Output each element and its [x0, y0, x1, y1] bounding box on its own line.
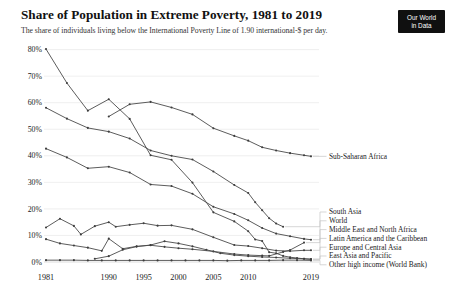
data-point-world	[191, 193, 193, 195]
data-point-latin-america-and-the-caribbean	[94, 225, 96, 227]
data-point-world	[87, 167, 89, 169]
data-point-latin-america-and-the-caribbean	[212, 236, 214, 238]
data-point-middle-east-and-north-africa	[164, 246, 166, 248]
x-axis-tick-label: 2000	[170, 273, 186, 282]
data-point-europe-and-central-asia	[247, 255, 249, 257]
data-point-south-asia	[275, 222, 277, 224]
data-point-europe-and-central-asia	[275, 256, 277, 258]
data-point-south-asia	[261, 209, 263, 211]
data-point-middle-east-and-north-africa	[303, 242, 305, 244]
data-point-europe-and-central-asia	[164, 240, 166, 242]
data-point-east-asia-and-pacific	[191, 182, 193, 184]
data-point-europe-and-central-asia	[219, 252, 221, 254]
data-point-latin-america-and-the-caribbean	[275, 250, 277, 252]
owid-logo[interactable]: Our World in Data	[398, 10, 445, 33]
data-point-europe-and-central-asia	[136, 246, 138, 248]
legend-label-east-asia-and-pacific[interactable]: East Asia and Pacific	[329, 251, 392, 260]
data-point-sub-saharan-africa	[129, 103, 131, 105]
x-axis-tick-label: 1995	[135, 273, 151, 282]
data-point-south-asia	[247, 192, 249, 194]
data-point-other-high-income-world-bank	[282, 259, 284, 261]
series-line-middle-east-and-north-africa[interactable]	[46, 239, 304, 256]
data-point-other-high-income-world-bank	[198, 259, 200, 261]
data-point-world	[45, 148, 47, 150]
series-line-other-high-income-world-bank[interactable]	[46, 260, 311, 261]
data-point-south-asia	[66, 118, 68, 120]
data-point-world	[66, 156, 68, 158]
data-point-east-asia-and-pacific	[212, 211, 214, 213]
legend-label-latin-america-and-the-caribbean[interactable]: Latin America and the Caribbean	[329, 234, 427, 243]
y-axis-tick-label: 20%	[28, 205, 43, 214]
data-point-latin-america-and-the-caribbean	[289, 250, 291, 252]
data-point-east-asia-and-pacific	[129, 118, 131, 120]
data-point-east-asia-and-pacific	[261, 240, 263, 242]
data-point-world	[170, 185, 172, 187]
legend-label-other-high-income-world-bank[interactable]: Other high income (World Bank)	[329, 260, 427, 269]
data-point-sub-saharan-africa	[261, 146, 263, 148]
data-point-east-asia-and-pacific	[150, 154, 152, 156]
data-point-sub-saharan-africa	[212, 127, 214, 129]
data-point-other-high-income-world-bank	[129, 259, 131, 261]
data-point-world	[129, 171, 131, 173]
series-line-latin-america-and-the-caribbean[interactable]	[46, 219, 311, 251]
data-point-latin-america-and-the-caribbean	[157, 225, 159, 227]
data-point-latin-america-and-the-caribbean	[261, 247, 263, 249]
data-point-middle-east-and-north-africa	[45, 238, 47, 240]
legend-label-middle-east-and-north-africa[interactable]: Middle East and North Africa	[329, 225, 418, 234]
data-point-other-high-income-world-bank	[157, 259, 159, 261]
data-point-east-asia-and-pacific	[45, 48, 47, 50]
data-point-middle-east-and-north-africa	[59, 242, 61, 244]
data-point-sub-saharan-africa	[108, 115, 110, 117]
data-point-east-asia-and-pacific	[247, 230, 249, 232]
data-point-europe-and-central-asia	[122, 249, 124, 251]
data-point-europe-and-central-asia	[233, 254, 235, 256]
data-point-latin-america-and-the-caribbean	[170, 224, 172, 226]
legend-label-south-asia[interactable]: South Asia	[329, 207, 362, 216]
data-point-latin-america-and-the-caribbean	[143, 222, 145, 224]
series-line-world[interactable]	[46, 149, 311, 240]
data-point-east-asia-and-pacific	[87, 110, 89, 112]
legend-label-sub-saharan-africa[interactable]: Sub-Saharan Africa	[329, 152, 388, 161]
data-point-other-high-income-world-bank	[101, 259, 103, 261]
data-point-east-asia-and-pacific	[66, 82, 68, 84]
data-point-latin-america-and-the-caribbean	[115, 226, 117, 228]
data-point-other-high-income-world-bank	[87, 259, 89, 261]
legend-label-world[interactable]: World	[329, 216, 348, 225]
data-point-east-asia-and-pacific	[233, 220, 235, 222]
data-point-sub-saharan-africa	[289, 152, 291, 154]
data-point-sub-saharan-africa	[233, 135, 235, 137]
data-point-south-asia	[212, 170, 214, 172]
data-point-other-high-income-world-bank	[268, 259, 270, 261]
data-point-latin-america-and-the-caribbean	[108, 221, 110, 223]
data-point-world	[233, 213, 235, 215]
legend-connector	[313, 260, 327, 264]
data-point-latin-america-and-the-caribbean	[303, 249, 305, 251]
data-point-middle-east-and-north-africa	[268, 255, 270, 257]
data-point-sub-saharan-africa	[247, 140, 249, 142]
data-point-east-asia-and-pacific	[275, 252, 277, 254]
data-point-south-asia	[150, 149, 152, 151]
data-point-world	[275, 233, 277, 235]
data-point-middle-east-and-north-africa	[191, 248, 193, 250]
data-point-world	[261, 227, 263, 229]
chart-subtitle: The share of individuals living below th…	[21, 26, 391, 35]
data-point-other-high-income-world-bank	[226, 260, 228, 262]
data-point-south-asia	[191, 158, 193, 160]
data-point-other-high-income-world-bank	[254, 259, 256, 261]
data-point-east-asia-and-pacific	[282, 255, 284, 257]
data-point-south-asia	[129, 137, 131, 139]
data-point-middle-east-and-north-africa	[73, 244, 75, 246]
data-point-south-asia	[45, 107, 47, 109]
series-line-east-asia-and-pacific[interactable]	[46, 49, 311, 259]
data-point-latin-america-and-the-caribbean	[80, 233, 82, 235]
data-point-other-high-income-world-bank	[296, 259, 298, 261]
data-point-other-high-income-world-bank	[240, 259, 242, 261]
x-axis-tick-label: 1990	[101, 273, 117, 282]
data-point-other-high-income-world-bank	[310, 259, 312, 261]
data-point-sub-saharan-africa	[310, 155, 312, 157]
data-point-south-asia	[233, 184, 235, 186]
data-point-latin-america-and-the-caribbean	[310, 249, 312, 251]
data-point-middle-east-and-north-africa	[177, 247, 179, 249]
data-point-other-high-income-world-bank	[212, 259, 214, 261]
legend-label-europe-and-central-asia[interactable]: Europe and Central Asia	[329, 243, 402, 252]
